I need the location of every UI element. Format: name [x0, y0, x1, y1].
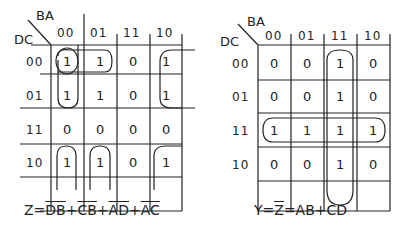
equation-rest: =AB+CD [284, 202, 347, 218]
left-cell: 0 [96, 122, 104, 137]
karnaugh-maps: BA DC 00 01 11 10 00 01 11 10 1 1 0 1 1 … [0, 0, 410, 233]
right-cell: 0 [369, 56, 377, 71]
left-cell: 1 [63, 54, 71, 69]
left-row-header: 11 [26, 123, 43, 137]
right-cell: 1 [336, 56, 344, 71]
left-equation: Z=DB+CB+AD+AC [24, 202, 160, 218]
term-var: B [56, 202, 66, 218]
left-cell: 1 [162, 54, 170, 69]
right-row-var-label: DC [220, 34, 239, 49]
right-cell: 1 [336, 89, 344, 104]
right-cell: 0 [303, 89, 311, 104]
right-row-header: 10 [232, 158, 249, 172]
left-cell: 0 [63, 122, 71, 137]
right-cell: 1 [369, 123, 377, 138]
left-col-var-label: BA [36, 8, 54, 23]
right-row-header: 01 [232, 90, 249, 104]
left-map-labels: BA DC 00 01 11 10 00 01 11 10 1 1 0 1 1 … [14, 8, 173, 170]
right-cell: 1 [336, 123, 344, 138]
right-row-header: 00 [232, 57, 249, 71]
left-cell: 0 [129, 122, 137, 137]
left-col-header: 10 [156, 26, 173, 40]
right-cell: 1 [270, 123, 278, 138]
left-cell: 1 [96, 155, 104, 170]
right-equation: Y=Z=AB+CD [254, 202, 347, 218]
term-var: D [45, 202, 56, 218]
left-row-header: 10 [26, 156, 43, 170]
right-cell: 0 [303, 56, 311, 71]
term-var: D [118, 202, 129, 218]
right-cell: 1 [303, 123, 311, 138]
z-bar: Z [274, 201, 284, 218]
right-cell: 1 [336, 157, 344, 172]
left-cell: 0 [129, 88, 137, 103]
right-karnaugh-map [238, 24, 390, 211]
right-cell: 0 [303, 157, 311, 172]
left-cell: 0 [162, 122, 170, 137]
left-row-header: 01 [26, 89, 43, 103]
equation-prefix: Z= [24, 202, 45, 218]
right-col-var-label: BA [247, 14, 265, 29]
left-cell: 1 [162, 155, 170, 170]
right-cell: 0 [270, 157, 278, 172]
right-cell: 0 [369, 157, 377, 172]
right-col-header: 00 [265, 29, 282, 43]
right-col-header: 10 [364, 29, 381, 43]
left-cell: 0 [129, 54, 137, 69]
right-col-header: 11 [331, 29, 348, 43]
left-karnaugh-map [20, 14, 195, 211]
term-var: C [77, 202, 87, 218]
left-cell: 1 [96, 54, 104, 69]
right-cell: 0 [270, 89, 278, 104]
right-row-header: 11 [232, 124, 249, 138]
left-cell: 1 [63, 155, 71, 170]
left-col-header: 01 [90, 26, 107, 40]
term-var: A [141, 202, 150, 218]
left-cell: 1 [162, 88, 170, 103]
right-cell: 0 [369, 89, 377, 104]
right-col-header: 01 [298, 29, 315, 43]
left-cell: 1 [96, 88, 104, 103]
left-row-header: 00 [26, 55, 43, 69]
left-cell: 1 [63, 88, 71, 103]
left-col-header: 11 [123, 26, 140, 40]
equation-prefix: Y= [254, 202, 274, 218]
term-var: C [150, 202, 160, 218]
left-cell: 0 [129, 155, 137, 170]
left-col-header: 00 [57, 26, 74, 40]
term-var: A [109, 202, 119, 218]
term-var: B [87, 202, 97, 218]
left-row-var-label: DC [14, 32, 33, 47]
right-cell: 0 [270, 56, 278, 71]
